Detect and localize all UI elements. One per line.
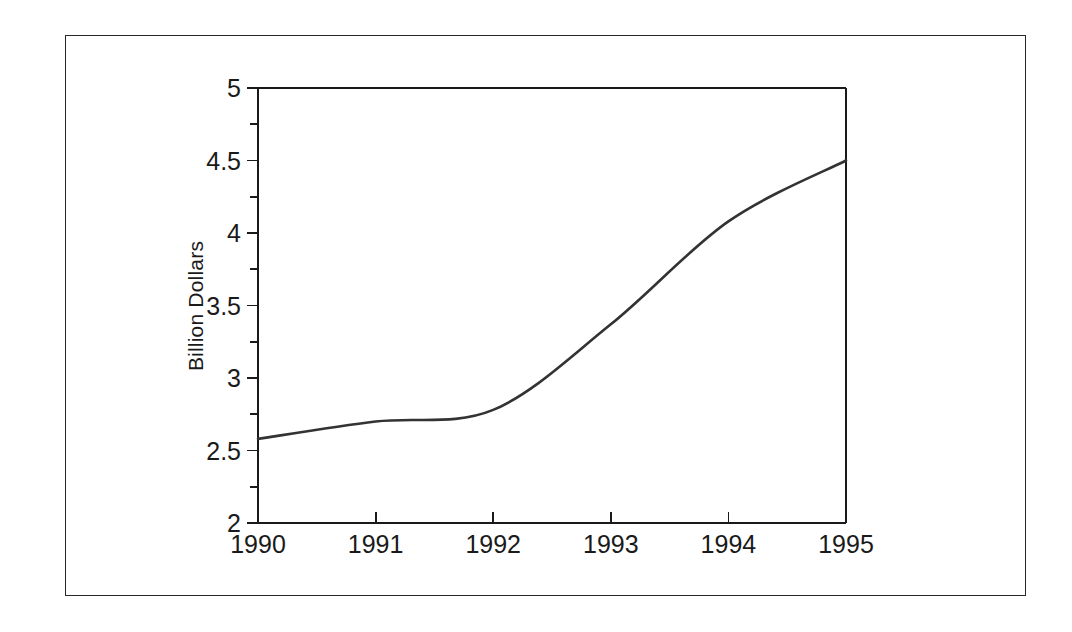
y-tick-label: 4 — [227, 221, 241, 246]
axis-frame — [258, 88, 846, 523]
y-tick-label: 4.5 — [206, 148, 241, 173]
data-series-line — [258, 161, 846, 439]
y-tick-label: 3 — [227, 366, 241, 391]
y-axis-title: Billion Dollars — [184, 240, 208, 370]
y-tick-label: 3.5 — [206, 293, 241, 318]
x-tick-label: 1994 — [701, 532, 757, 557]
x-tick-label: 1992 — [465, 532, 521, 557]
line-chart-plot — [0, 0, 1072, 632]
x-tick-label: 1995 — [818, 532, 874, 557]
y-tick-label: 5 — [227, 76, 241, 101]
y-tick-label: 2.5 — [206, 438, 241, 463]
x-tick-label: 1990 — [230, 532, 286, 557]
chart-figure: 22.533.544.55199019911992199319941995 Bi… — [0, 0, 1072, 632]
tick-marks — [247, 88, 846, 523]
x-tick-label: 1991 — [348, 532, 404, 557]
x-tick-label: 1993 — [583, 532, 639, 557]
